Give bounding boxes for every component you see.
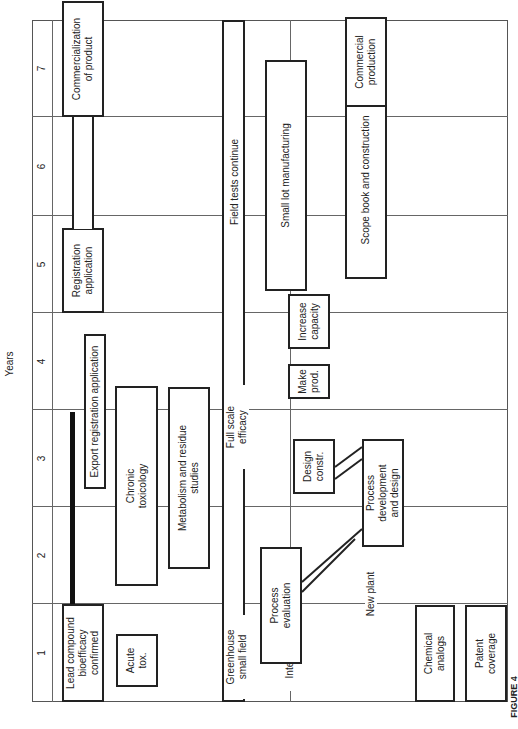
chemical-analogs-box: Chemical analogs bbox=[415, 605, 455, 702]
development-timeline-diagram: Years 1 2 3 4 5 6 7 Lead compound bioeff… bbox=[0, 0, 518, 729]
commercial-production-box: Commercial production bbox=[345, 17, 387, 107]
patent-coverage-box: Patent coverage bbox=[465, 605, 507, 702]
figure-caption: FIGURE 4 bbox=[508, 665, 518, 729]
scope-book-construction-box: Scope book and construction bbox=[345, 81, 387, 279]
